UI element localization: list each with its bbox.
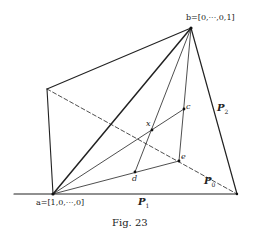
label-P2: P2 (217, 103, 228, 115)
label-a: a=[1,0,···,0] (36, 199, 84, 207)
label-P2-main: P (217, 102, 225, 113)
label-d: d (132, 175, 137, 183)
edge-a-b (53, 28, 191, 194)
line-b-e (179, 28, 191, 161)
point-a (51, 192, 54, 195)
label-x: x (146, 120, 151, 128)
line-a-c (53, 109, 184, 194)
point-d (134, 171, 137, 174)
label-e: e (181, 153, 186, 161)
left-edge (47, 89, 53, 194)
point-x (151, 129, 154, 132)
label-P2-sub: 2 (225, 108, 229, 115)
label-P1-sub: 1 (146, 202, 150, 209)
label-P0: P0 (204, 176, 215, 188)
line-b-d (135, 28, 191, 172)
label-P1-main: P (138, 196, 146, 207)
edge-P2 (191, 28, 237, 194)
top-left-edge (47, 28, 191, 89)
point-c (183, 108, 186, 111)
point-b (189, 26, 192, 29)
label-b: b=[0,···,0,1] (186, 14, 235, 22)
label-P0-main: P (204, 175, 212, 186)
figure-caption: Fig. 23 (112, 218, 148, 228)
point-e (178, 160, 181, 163)
point-right-corner (236, 193, 238, 195)
label-P0-sub: 0 (212, 181, 216, 188)
label-P1: P1 (138, 197, 149, 209)
label-c: c (186, 103, 190, 111)
line-a-e (53, 161, 179, 194)
